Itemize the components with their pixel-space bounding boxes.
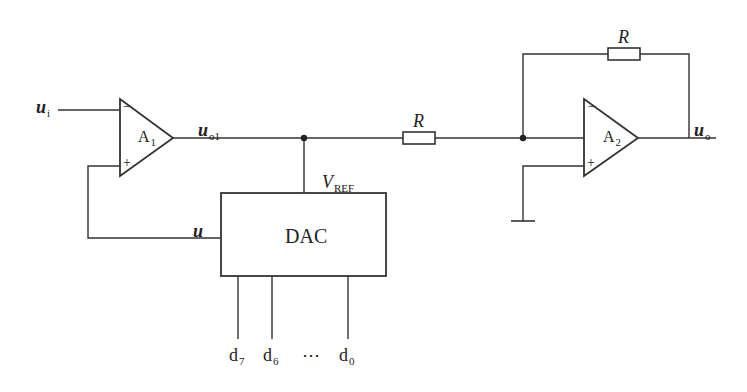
- label-vref: VREF: [322, 173, 354, 194]
- label-d0: d0: [339, 346, 355, 367]
- series-resistor: [403, 132, 435, 144]
- label-d6: d6: [263, 346, 279, 367]
- feedback-resistor: [608, 48, 640, 60]
- junction-dot-vref: [301, 135, 307, 141]
- label-uo: uo: [694, 121, 711, 142]
- label-series-resistor: R: [413, 112, 424, 130]
- ground-wire: [523, 166, 584, 221]
- junction-dot-feedback: [520, 135, 526, 141]
- circuit-diagram: ui − + A1 uo1 VREF u DAC R R − + A2 uo d…: [0, 0, 747, 392]
- feedback-wire-left: [523, 54, 608, 138]
- label-u: u: [193, 222, 203, 240]
- dac-label: DAC: [285, 226, 327, 246]
- feedback-wire-right: [640, 54, 689, 138]
- label-feedback-resistor: R: [618, 28, 629, 46]
- a2-label: A2: [603, 129, 621, 148]
- label-ui: ui: [36, 98, 50, 119]
- a2-plus-sign: +: [587, 156, 595, 170]
- circuit-wires: [0, 0, 747, 392]
- a1-label: A1: [138, 129, 156, 148]
- a1-plus-sign: +: [123, 156, 131, 170]
- label-ellipsis: ⋯: [302, 346, 320, 364]
- label-d7: d7: [229, 346, 245, 367]
- a2-minus-sign: −: [588, 100, 596, 114]
- a1-minus-sign: −: [123, 100, 131, 114]
- label-uo1: uo1: [198, 121, 220, 142]
